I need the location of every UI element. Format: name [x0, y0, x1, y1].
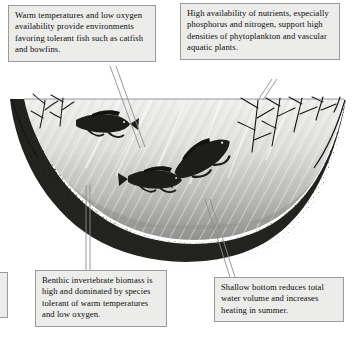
callout-warm-low-oxygen: Warm temperatures and low oxygen availab… [8, 5, 156, 62]
callout-partial-clipped [0, 272, 8, 318]
callout-text: Benthic invertebrate biomass is high and… [42, 275, 161, 321]
callout-text: Warm temperatures and low oxygen availab… [15, 10, 150, 56]
callout-nutrient-availability: High availability of nutrients, especial… [180, 3, 340, 60]
callout-benthic-invertebrates: Benthic invertebrate biomass is high and… [35, 270, 167, 327]
lake-cross-section-figure: Warm temperatures and low oxygen availab… [0, 0, 352, 364]
callout-shallow-bottom: Shallow bottom reduces total water volum… [214, 277, 344, 322]
callout-text: High availability of nutrients, especial… [187, 8, 334, 54]
callout-text: Shallow bottom reduces total water volum… [221, 282, 338, 316]
